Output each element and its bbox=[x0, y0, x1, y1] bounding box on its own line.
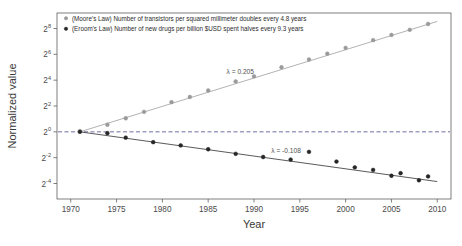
y-tick-label: 28 bbox=[43, 23, 51, 33]
legend-label-1: (Eroom's Law) Number of new drugs per bi… bbox=[72, 25, 304, 33]
data-point-moores-law[interactable] bbox=[307, 58, 311, 62]
y-tick-label: 24 bbox=[43, 75, 51, 85]
y-tick-label: 26 bbox=[43, 49, 51, 59]
data-point-moores-law[interactable] bbox=[124, 116, 128, 120]
data-point-moores-law[interactable] bbox=[142, 110, 146, 114]
data-point-moores-law[interactable] bbox=[170, 100, 174, 104]
legend-label-0: (Moore's Law) Number of transistors per … bbox=[72, 15, 306, 23]
y-axis-title: Normalized value bbox=[6, 64, 18, 149]
data-point-moores-law[interactable] bbox=[325, 52, 329, 56]
data-point-moores-law[interactable] bbox=[105, 123, 109, 127]
data-point-moores-law[interactable] bbox=[234, 80, 238, 84]
data-point-erooms-law[interactable] bbox=[417, 178, 421, 182]
y-tick-label: 20 bbox=[43, 126, 51, 136]
data-point-erooms-law[interactable] bbox=[124, 136, 128, 140]
data-point-moores-law[interactable] bbox=[371, 38, 375, 42]
data-point-erooms-law[interactable] bbox=[151, 140, 155, 144]
x-tick-label: 1980 bbox=[153, 205, 172, 214]
data-point-erooms-law[interactable] bbox=[390, 174, 394, 178]
lambda-eroom: λ = -0.108 bbox=[271, 147, 301, 154]
data-point-moores-law[interactable] bbox=[206, 89, 210, 93]
plot-frame bbox=[57, 13, 451, 199]
x-tick-label: 1995 bbox=[291, 205, 310, 214]
data-point-erooms-law[interactable] bbox=[234, 152, 238, 156]
data-point-erooms-law[interactable] bbox=[307, 150, 311, 154]
data-point-erooms-law[interactable] bbox=[399, 171, 403, 175]
data-point-moores-law[interactable] bbox=[280, 65, 284, 69]
data-point-erooms-law[interactable] bbox=[335, 160, 339, 164]
legend-marker-1 bbox=[64, 27, 67, 30]
x-tick-label: 1990 bbox=[245, 205, 264, 214]
data-point-erooms-law[interactable] bbox=[426, 174, 430, 178]
x-tick-label: 1975 bbox=[107, 205, 126, 214]
data-point-moores-law[interactable] bbox=[188, 95, 192, 99]
y-tick-label: 2-4 bbox=[41, 178, 51, 188]
x-tick-label: 2000 bbox=[337, 205, 356, 214]
data-point-erooms-law[interactable] bbox=[179, 143, 183, 147]
legend-marker-0 bbox=[64, 17, 67, 20]
chart-canvas: 1970197519801985199019952000200520102826… bbox=[0, 0, 462, 246]
data-point-erooms-law[interactable] bbox=[261, 155, 265, 159]
data-point-moores-law[interactable] bbox=[390, 33, 394, 37]
y-tick-label: 22 bbox=[43, 101, 51, 111]
y-tick-label: 2-2 bbox=[41, 152, 51, 162]
data-point-moores-law[interactable] bbox=[344, 46, 348, 50]
data-point-erooms-law[interactable] bbox=[105, 131, 109, 135]
x-axis-title: Year bbox=[243, 218, 266, 230]
x-tick-label: 2010 bbox=[428, 205, 447, 214]
data-point-erooms-law[interactable] bbox=[78, 130, 82, 134]
x-tick-label: 2005 bbox=[382, 205, 401, 214]
data-point-erooms-law[interactable] bbox=[289, 158, 293, 162]
data-point-erooms-law[interactable] bbox=[353, 165, 357, 169]
chart-figure: 1970197519801985199019952000200520102826… bbox=[0, 0, 462, 246]
data-point-moores-law[interactable] bbox=[408, 28, 412, 32]
lambda-moore: λ = 0.205 bbox=[227, 68, 255, 75]
data-point-erooms-law[interactable] bbox=[371, 168, 375, 172]
x-tick-label: 1970 bbox=[62, 205, 81, 214]
data-point-moores-law[interactable] bbox=[426, 22, 430, 26]
x-tick-label: 1985 bbox=[199, 205, 218, 214]
data-point-erooms-law[interactable] bbox=[206, 147, 210, 151]
